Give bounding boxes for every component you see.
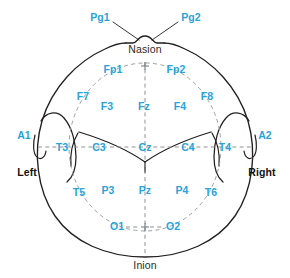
electrode-label-t3: T3 xyxy=(56,142,68,153)
electrode-label-pg2: Pg2 xyxy=(181,12,201,23)
landmark-label-nasion: Nasion xyxy=(128,44,161,55)
electrode-label-p3: P3 xyxy=(101,185,114,196)
electrode-label-fp2: Fp2 xyxy=(167,64,186,75)
electrode-label-o1: O1 xyxy=(110,221,124,232)
electrode-label-f4: F4 xyxy=(174,101,186,112)
head-schematic-svg xyxy=(0,0,290,278)
electrode-label-cz: Cz xyxy=(138,142,151,153)
electrode-label-fz: Fz xyxy=(138,101,150,112)
left-ear-canal-path xyxy=(71,133,78,166)
pg1-leader-line xyxy=(113,22,139,40)
crosshair-bottom-icon xyxy=(141,223,149,231)
side-label-left: Left xyxy=(17,167,37,178)
electrode-label-p4: P4 xyxy=(175,185,188,196)
electrode-label-f3: F3 xyxy=(101,101,113,112)
electrode-label-t5: T5 xyxy=(73,187,85,198)
pg2-leader-line xyxy=(152,22,178,40)
electrode-label-c3: C3 xyxy=(92,142,106,153)
electrode-label-fp1: Fp1 xyxy=(104,64,123,75)
electrode-label-t4: T4 xyxy=(219,142,231,153)
electrode-label-c4: C4 xyxy=(181,142,195,153)
electrode-label-o2: O2 xyxy=(166,221,180,232)
electrode-label-a1: A1 xyxy=(17,130,31,141)
electrode-label-f7: F7 xyxy=(77,91,89,102)
electrode-label-f8: F8 xyxy=(201,91,213,102)
side-label-right: Right xyxy=(248,167,275,178)
eeg-electrode-placement-diagram: Pg1 Pg2 Fp1 Fp2 F7 F3 Fz F4 F8 A1 T3 C3 … xyxy=(0,0,290,278)
electrode-label-pz: Pz xyxy=(139,185,151,196)
landmark-label-inion: Inion xyxy=(133,260,156,271)
electrode-label-a2: A2 xyxy=(258,130,272,141)
electrode-label-pg1: Pg1 xyxy=(90,12,110,23)
electrode-label-t6: T6 xyxy=(205,187,217,198)
